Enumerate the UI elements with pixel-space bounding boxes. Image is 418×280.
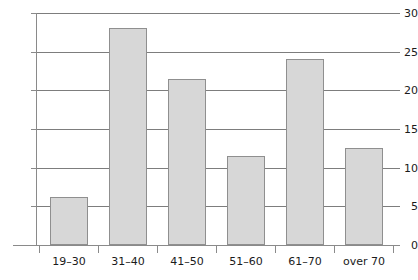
x-label-41-50: 41–50 <box>157 256 217 268</box>
y-tick-mark-30 <box>31 13 37 14</box>
x-label-over-70: over 70 <box>334 256 394 268</box>
bar-41-50 <box>168 79 206 245</box>
x-label-31-40: 31–40 <box>98 256 158 268</box>
y-tick-label-25: 25 <box>394 47 418 58</box>
bar-19-30 <box>50 197 88 245</box>
y-tick-mark-20 <box>31 90 37 91</box>
y-tick-mark-10 <box>31 168 37 169</box>
x-label-61-70: 61–70 <box>275 256 335 268</box>
y-tick-mark-25 <box>31 52 37 53</box>
y-tick-label-20: 20 <box>394 85 418 96</box>
x-tick-mark-4 <box>275 246 276 253</box>
x-axis-line <box>13 245 400 246</box>
gridline-15 <box>36 129 400 130</box>
bar-61-70 <box>286 59 324 245</box>
x-tick-mark-0 <box>39 246 40 253</box>
y-tick-label-10: 10 <box>394 163 418 174</box>
plot-area: 30 25 20 15 10 5 0 19–30 31–40 41–50 51–… <box>0 0 418 280</box>
bar-chart: 30 25 20 15 10 5 0 19–30 31–40 41–50 51–… <box>0 0 418 280</box>
x-tick-mark-3 <box>216 246 217 253</box>
y-tick-mark-5 <box>31 206 37 207</box>
x-tick-mark-2 <box>157 246 158 253</box>
x-tick-mark-1 <box>98 246 99 253</box>
y-tick-mark-15 <box>31 129 37 130</box>
gridline-30 <box>36 13 400 14</box>
x-label-19-30: 19–30 <box>39 256 99 268</box>
y-tick-label-5: 5 <box>394 201 418 212</box>
gridline-25 <box>36 52 400 53</box>
y-tick-label-30: 30 <box>394 8 418 19</box>
gridline-20 <box>36 90 400 91</box>
y-tick-label-15: 15 <box>394 124 418 135</box>
x-tick-mark-6 <box>393 246 394 253</box>
bar-31-40 <box>109 28 147 245</box>
bar-over-70 <box>345 148 383 245</box>
bar-51-60 <box>227 156 265 245</box>
x-label-51-60: 51–60 <box>216 256 276 268</box>
x-tick-mark-5 <box>334 246 335 253</box>
